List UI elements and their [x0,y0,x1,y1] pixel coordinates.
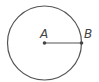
label-a: A [39,27,48,41]
circle-diagram: A B [0,0,99,82]
point-b [80,41,84,45]
label-b: B [84,27,92,41]
point-a [43,41,47,45]
